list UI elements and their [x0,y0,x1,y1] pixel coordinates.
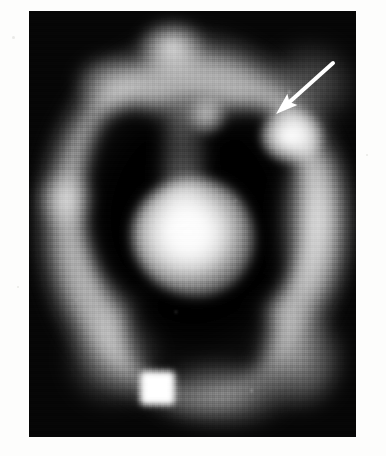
page-speck [366,154,368,156]
page-speck [17,286,19,288]
figure-root [0,0,386,456]
page-speck [12,36,15,39]
pixelation-texture [29,11,356,437]
scan-image-frame [29,11,356,437]
